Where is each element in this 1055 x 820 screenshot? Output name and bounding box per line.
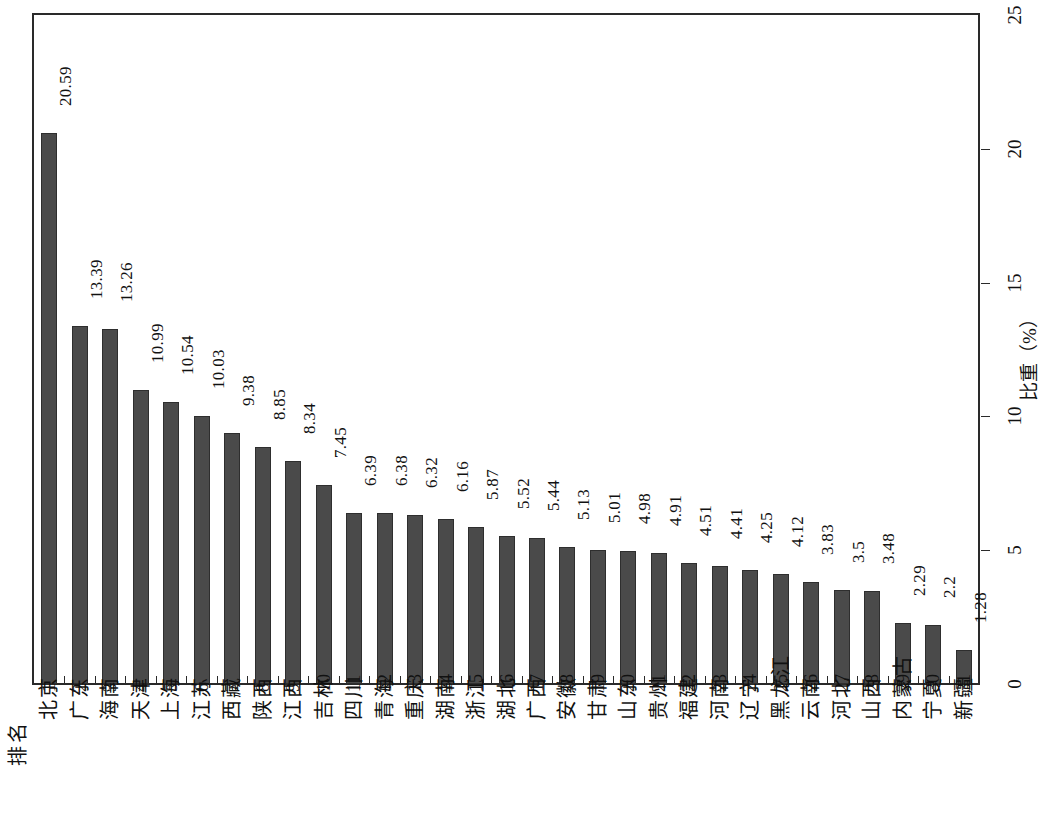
bar-rect bbox=[681, 563, 697, 684]
category-name: 安徽 bbox=[557, 676, 577, 720]
category-name: 甘肃 bbox=[588, 676, 608, 720]
category-tick bbox=[461, 676, 462, 685]
bar-11: 6.39 bbox=[346, 15, 362, 684]
category-name: 四川 bbox=[344, 676, 364, 720]
bar-2: 13.39 bbox=[72, 15, 88, 684]
bar-9: 8.34 bbox=[285, 15, 301, 684]
bar-27: 3.5 bbox=[834, 15, 850, 684]
bar-15: 5.87 bbox=[468, 15, 484, 684]
category-tick bbox=[857, 676, 858, 685]
bar-value-label: 1.28 bbox=[972, 592, 989, 623]
category-tick bbox=[125, 676, 126, 685]
category-name: 青海 bbox=[375, 676, 395, 720]
category-name: 山东 bbox=[618, 676, 638, 720]
category-name: 贵州 bbox=[649, 676, 669, 720]
category-name: 吉林 bbox=[314, 676, 334, 720]
category-tick bbox=[979, 676, 980, 685]
category-name: 黑龙江 bbox=[771, 654, 791, 720]
category-tick bbox=[766, 676, 767, 685]
bar-rect bbox=[346, 513, 362, 684]
value-tick-label: 25 bbox=[1005, 6, 1024, 25]
bar-26: 3.83 bbox=[803, 15, 819, 684]
category-tick bbox=[339, 676, 340, 685]
bar-rect bbox=[712, 566, 728, 684]
category-name: 湖南 bbox=[436, 676, 456, 720]
category-tick bbox=[918, 676, 919, 685]
category-name: 北京 bbox=[39, 676, 59, 720]
category-name: 山西 bbox=[862, 676, 882, 720]
bar-rect bbox=[438, 519, 454, 684]
bar-20: 4.98 bbox=[620, 15, 636, 684]
bar-rect bbox=[620, 551, 636, 684]
category-tick bbox=[400, 676, 401, 685]
category-tick bbox=[827, 676, 828, 685]
bar-rect bbox=[468, 527, 484, 684]
bar-rect bbox=[316, 485, 332, 684]
category-tick bbox=[552, 676, 553, 685]
bar-rect bbox=[377, 513, 393, 684]
category-tick bbox=[95, 676, 96, 685]
category-name: 宁夏 bbox=[923, 676, 943, 720]
category-name: 重庆 bbox=[405, 676, 425, 720]
value-tick bbox=[981, 550, 990, 551]
category-name: 江西 bbox=[283, 676, 303, 720]
bar-rect bbox=[559, 547, 575, 684]
bar-22: 4.51 bbox=[681, 15, 697, 684]
category-name: 浙江 bbox=[466, 676, 486, 720]
bar-rect bbox=[285, 461, 301, 684]
bar-rect bbox=[194, 416, 210, 684]
category-name: 河北 bbox=[832, 676, 852, 720]
value-tick bbox=[981, 283, 990, 284]
category-tick bbox=[705, 676, 706, 685]
category-name: 广东 bbox=[70, 676, 90, 720]
bar-8: 8.85 bbox=[255, 15, 271, 684]
bar-14: 6.16 bbox=[438, 15, 454, 684]
bar-rect bbox=[224, 433, 240, 684]
category-tick bbox=[308, 676, 309, 685]
category-name: 海南 bbox=[100, 676, 120, 720]
bar-21: 4.91 bbox=[651, 15, 667, 684]
category-tick bbox=[949, 676, 950, 685]
bars-layer: 20.5913.3913.2610.9910.5410.039.388.858.… bbox=[34, 15, 979, 684]
category-name: 广西 bbox=[527, 676, 547, 720]
category-tick bbox=[796, 676, 797, 685]
bar-rect bbox=[41, 133, 57, 684]
bar-28: 3.48 bbox=[864, 15, 880, 684]
category-tick bbox=[491, 676, 492, 685]
bar-rect bbox=[864, 591, 880, 684]
category-name: 湖北 bbox=[497, 676, 517, 720]
bar-rect bbox=[407, 515, 423, 684]
category-name: 西藏 bbox=[222, 676, 242, 720]
bar-23: 4.41 bbox=[712, 15, 728, 684]
category-name: 内蒙古 bbox=[893, 654, 913, 720]
category-name: 天津 bbox=[131, 676, 151, 720]
bar-25: 4.12 bbox=[773, 15, 789, 684]
value-tick-label: 10 bbox=[1005, 407, 1024, 426]
bar-16: 5.52 bbox=[499, 15, 515, 684]
bar-30: 2.2 bbox=[925, 15, 941, 684]
value-tick-label: 5 bbox=[1005, 545, 1024, 555]
bar-rect bbox=[590, 550, 606, 684]
category-tick bbox=[186, 676, 187, 685]
category-name: 福建 bbox=[679, 676, 699, 720]
value-tick bbox=[981, 416, 990, 417]
bar-chart: 20.5913.3913.2610.9910.5410.039.388.858.… bbox=[0, 0, 1055, 820]
bar-6: 10.03 bbox=[194, 15, 210, 684]
bar-13: 6.32 bbox=[407, 15, 423, 684]
category-name: 陕西 bbox=[253, 676, 273, 720]
category-tick bbox=[369, 676, 370, 685]
category-axis-labels: 1北京2广东3海南4天津5上海6江苏7西藏8陕西9江西10吉林11四川12青海1… bbox=[34, 690, 979, 820]
value-tick-label: 20 bbox=[1005, 139, 1024, 158]
bar-rect bbox=[102, 329, 118, 684]
bar-rect bbox=[742, 570, 758, 684]
bar-rect bbox=[499, 536, 515, 684]
value-tick bbox=[981, 149, 990, 150]
bar-rect bbox=[255, 447, 271, 684]
category-tick bbox=[156, 676, 157, 685]
category-tick bbox=[613, 676, 614, 685]
category-tick bbox=[247, 676, 248, 685]
bar-3: 13.26 bbox=[102, 15, 118, 684]
bar-31: 1.28 bbox=[956, 15, 972, 684]
category-name: 江苏 bbox=[192, 676, 212, 720]
category-tick bbox=[64, 676, 65, 685]
